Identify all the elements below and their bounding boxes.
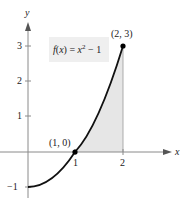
- x-axis-label: x: [174, 146, 180, 157]
- y-tick-label: 3: [17, 40, 22, 51]
- function-label-suffix: − 1: [86, 44, 102, 55]
- point-2-3: [120, 43, 125, 48]
- point-1-0: [72, 149, 77, 154]
- function-graph: x y 1 2 −1 1 2 3 (1, 0) (2, 3) f(x) = x2…: [0, 0, 190, 206]
- y-tick-label: 1: [17, 110, 22, 121]
- y-axis-arrow-icon: [25, 22, 31, 31]
- y-tick-label: −1: [7, 181, 18, 192]
- point-label-1-0: (1, 0): [49, 137, 71, 149]
- x-tick-label: 2: [120, 157, 125, 168]
- y-axis-label: y: [24, 7, 30, 18]
- x-tick-label: 1: [73, 157, 78, 168]
- x-axis-arrow-icon: [163, 149, 172, 155]
- y-tick-label: 2: [17, 75, 22, 86]
- point-label-2-3: (2, 3): [111, 28, 133, 40]
- function-label: f(x) = x2 − 1: [53, 43, 101, 56]
